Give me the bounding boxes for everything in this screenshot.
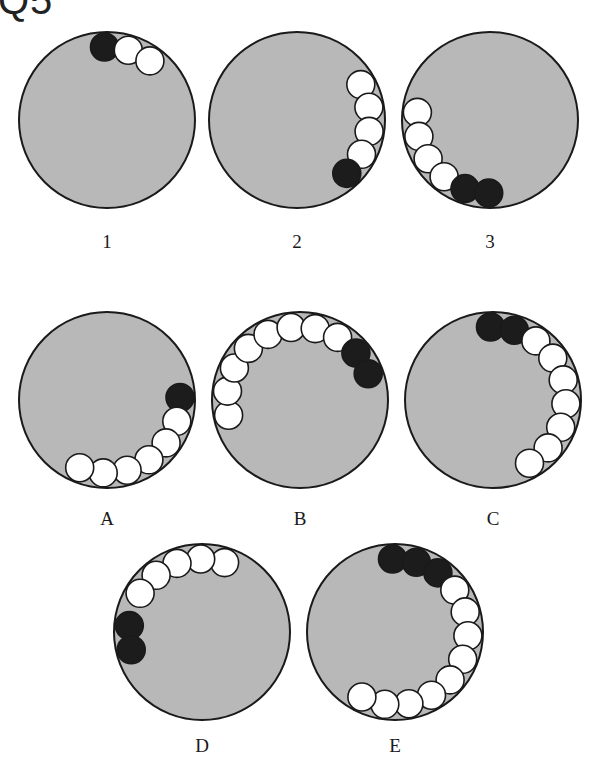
panel-label: 1 xyxy=(102,231,112,252)
panel-label: 3 xyxy=(485,231,495,252)
panel-label: B xyxy=(294,508,307,529)
black-ball xyxy=(354,360,382,388)
white-ball xyxy=(348,683,376,711)
white-ball xyxy=(66,454,94,482)
black-ball xyxy=(475,179,503,207)
panel-label: A xyxy=(100,508,114,529)
panel-1: 1 xyxy=(19,32,195,252)
panel-label: D xyxy=(195,735,209,756)
panel-b: B xyxy=(212,312,388,529)
panel-3: 3 xyxy=(402,32,578,252)
panel-label: E xyxy=(389,735,401,756)
panel-label: C xyxy=(487,508,500,529)
white-ball xyxy=(136,47,164,75)
panel-c: C xyxy=(405,312,581,529)
white-ball xyxy=(516,449,544,477)
panel-e: E xyxy=(307,544,483,756)
panel-a: A xyxy=(19,312,195,529)
panel-label: 2 xyxy=(292,231,302,252)
black-ball xyxy=(117,636,145,664)
panel-2: 2 xyxy=(209,32,385,252)
black-ball xyxy=(333,159,361,187)
puzzle-diagram: 123ABCDE xyxy=(0,0,594,764)
white-ball xyxy=(126,579,154,607)
panel-d: D xyxy=(114,544,290,756)
